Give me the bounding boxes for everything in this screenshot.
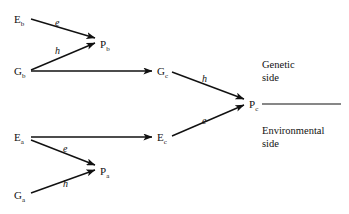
edge-eb-pb <box>31 19 95 38</box>
node-ec-base: E <box>157 131 164 143</box>
environmental-side-line2: side <box>262 137 324 150</box>
node-ga-sub: a <box>22 196 25 204</box>
environmental-side-line1: Environmental <box>262 124 324 137</box>
node-gc-sub: c <box>165 72 168 80</box>
node-ga: Ga <box>14 190 25 201</box>
edge-label-ga-pa: h <box>63 179 68 189</box>
node-ec-sub: c <box>164 138 167 146</box>
node-ea-sub: a <box>21 138 24 146</box>
node-pb-sub: b <box>106 45 110 53</box>
genetic-side-line1: Genetic <box>262 58 295 71</box>
node-gc-base: G <box>157 65 165 77</box>
edge-label-eb-pb: e <box>55 18 59 28</box>
environmental-side-label: Environmental side <box>262 124 324 150</box>
edge-gc-pc <box>172 72 244 99</box>
node-pb: Pb <box>100 39 110 50</box>
genetic-side-label: Genetic side <box>262 58 295 84</box>
edge-label-gb-pb: h <box>55 46 60 56</box>
edge-gb-pb <box>31 43 95 70</box>
node-gc: Gc <box>157 66 168 77</box>
node-ea: Ea <box>14 132 24 143</box>
node-pc: Pc <box>249 99 258 110</box>
diagram-edges-layer <box>0 0 349 214</box>
node-ga-base: G <box>14 189 22 201</box>
node-ec: Ec <box>157 132 167 143</box>
node-eb-sub: b <box>21 20 25 28</box>
node-pa-sub: a <box>106 172 109 180</box>
node-eb-base: E <box>14 13 21 25</box>
node-gb-base: G <box>14 65 22 77</box>
node-gb: Gb <box>14 66 25 77</box>
node-ea-base: E <box>14 131 21 143</box>
edge-ec-pc <box>172 105 244 136</box>
path-diagram: Eb Pb Gb Gc Pc Ea Ec Pa Ga e h h e h e G… <box>0 0 349 214</box>
node-pc-sub: c <box>255 105 258 113</box>
genetic-side-line2: side <box>262 71 295 84</box>
node-eb: Eb <box>14 14 24 25</box>
node-pa: Pa <box>100 166 109 177</box>
node-gb-sub: b <box>22 72 26 80</box>
edge-label-ea-pa: e <box>63 144 67 154</box>
edge-label-gc-pc: h <box>202 74 207 84</box>
edge-label-ec-pc: e <box>202 116 206 126</box>
